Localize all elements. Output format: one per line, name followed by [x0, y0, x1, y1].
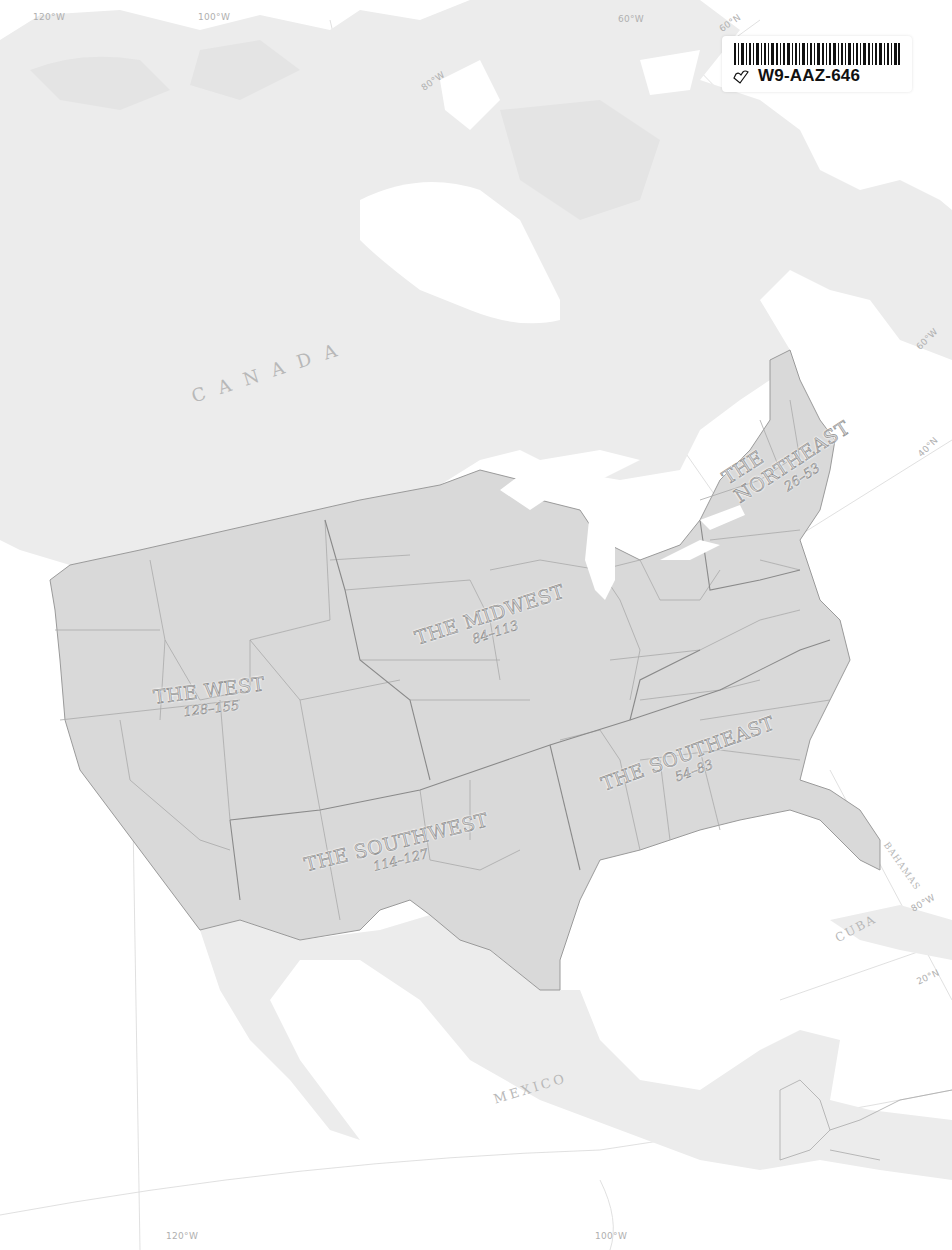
- sticker-code: W9-AAZ-646: [758, 66, 860, 86]
- barcode-sticker: W9-AAZ-646: [722, 36, 912, 92]
- graticule-label-100w-top: 100°W: [198, 12, 230, 22]
- barcode-icon: [734, 43, 900, 65]
- graticule-label-120w-bottom: 120°W: [166, 1231, 198, 1241]
- bookmark-heart-icon: [732, 69, 750, 85]
- graticule-label-60w-top: 60°W: [618, 14, 644, 24]
- graticule-label-100w-bottom: 100°W: [595, 1231, 627, 1241]
- graticule-label-120w-top: 120°W: [33, 12, 65, 22]
